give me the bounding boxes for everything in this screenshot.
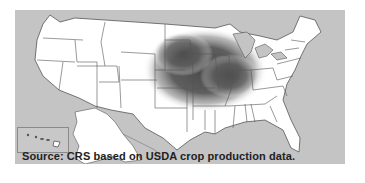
hawaii-islands-graphic [18,128,68,152]
source-caption: Source: CRS based on USDA crop productio… [22,150,295,162]
